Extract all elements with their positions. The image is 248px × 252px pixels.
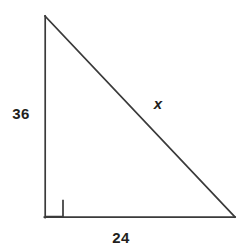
right-triangle-drawing — [0, 0, 248, 252]
hypotenuse-line — [45, 16, 235, 217]
right-angle-marker-icon — [46, 201, 63, 217]
side-label-horizontal-leg: 24 — [90, 230, 152, 245]
side-label-hypotenuse: x — [148, 96, 168, 111]
geometry-figure-canvas: 36 24 x — [0, 0, 248, 252]
side-label-vertical-leg: 36 — [0, 106, 42, 121]
